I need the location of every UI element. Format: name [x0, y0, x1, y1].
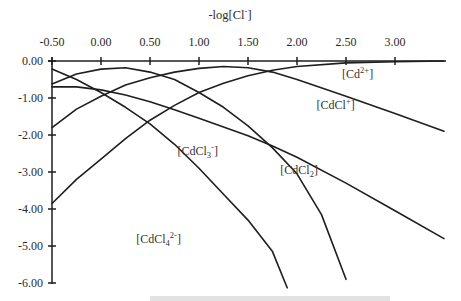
- x-tick-label: 1.50: [238, 35, 259, 49]
- y-tick-label: -4.00: [18, 202, 43, 216]
- series-curve: [52, 69, 287, 288]
- figure-caption-fragment: [150, 296, 390, 301]
- series-label: [CdCl+]: [317, 96, 355, 112]
- x-tick-label: 3.00: [385, 35, 406, 49]
- series-label: [Cd2+]: [342, 65, 373, 81]
- x-tick-label: 0.50: [140, 35, 161, 49]
- series-curve: [52, 61, 444, 204]
- speciation-chart: -log[Cl-] -0.500.000.501.001.502.002.503…: [0, 0, 461, 301]
- x-axis-title: -log[Cl-]: [208, 6, 251, 22]
- y-tick-label: -2.00: [18, 128, 43, 142]
- series-label: [CdCl42-]: [136, 230, 181, 248]
- x-tick-label: 1.00: [189, 35, 210, 49]
- y-axis-ticks: 0.00-1.00-2.00-3.00-4.00-5.00-6.00: [18, 54, 56, 290]
- x-tick-label: -0.50: [40, 35, 65, 49]
- x-tick-label: 2.00: [287, 35, 308, 49]
- y-tick-label: -1.00: [18, 91, 43, 105]
- y-tick-label: 0.00: [22, 54, 43, 68]
- x-tick-label: 2.50: [336, 35, 357, 49]
- series-labels: [Cd2+][CdCl+][CdCl2][CdCl3-][CdCl42-]: [136, 65, 373, 248]
- series-curves: [52, 61, 444, 288]
- x-tick-label: 0.00: [91, 35, 112, 49]
- y-tick-label: -3.00: [18, 165, 43, 179]
- y-tick-label: -6.00: [18, 276, 43, 290]
- series-label: [CdCl3-]: [177, 142, 217, 160]
- y-tick-label: -5.00: [18, 239, 43, 253]
